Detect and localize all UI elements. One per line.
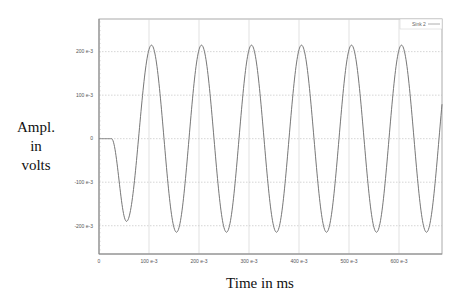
- x-axis-ticks: 0100 e-3200 e-3300 e-3400 e-3500 e-3600 …: [98, 258, 408, 264]
- x-tick-label: 500 e-3: [341, 258, 358, 264]
- y-tick-label: 0: [90, 135, 93, 141]
- plot-frame: [99, 19, 442, 254]
- x-tick-label: 200 e-3: [191, 258, 208, 264]
- x-tick-label: 300 e-3: [241, 258, 258, 264]
- x-tick-label: 100 e-3: [141, 258, 158, 264]
- y-axis-title-line1: Ampl.: [4, 118, 68, 137]
- x-axis-title: Time in ms: [200, 275, 320, 292]
- y-tick-label: 200 e-3: [76, 48, 93, 54]
- y-tick-label: -100 e-3: [74, 179, 93, 185]
- y-tick-label: -200 e-3: [74, 223, 93, 229]
- y-tick-label: 100 e-3: [76, 92, 93, 98]
- y-axis-title-line3: volts: [4, 156, 68, 175]
- legend-label: Sink 2: [412, 21, 426, 27]
- x-tick-label: 0: [98, 258, 101, 264]
- x-tick-label: 400 e-3: [291, 258, 308, 264]
- legend: Sink 2: [400, 19, 442, 29]
- y-axis-ticks: 200 e-3100 e-30-100 e-3-200 e-3: [74, 48, 93, 228]
- line-chart: 200 e-3100 e-30-100 e-3-200 e-3 0100 e-3…: [0, 0, 463, 301]
- y-axis-title: Ampl. in volts: [4, 118, 68, 175]
- x-tick-label: 600 e-3: [391, 258, 408, 264]
- y-axis-title-line2: in: [4, 137, 68, 156]
